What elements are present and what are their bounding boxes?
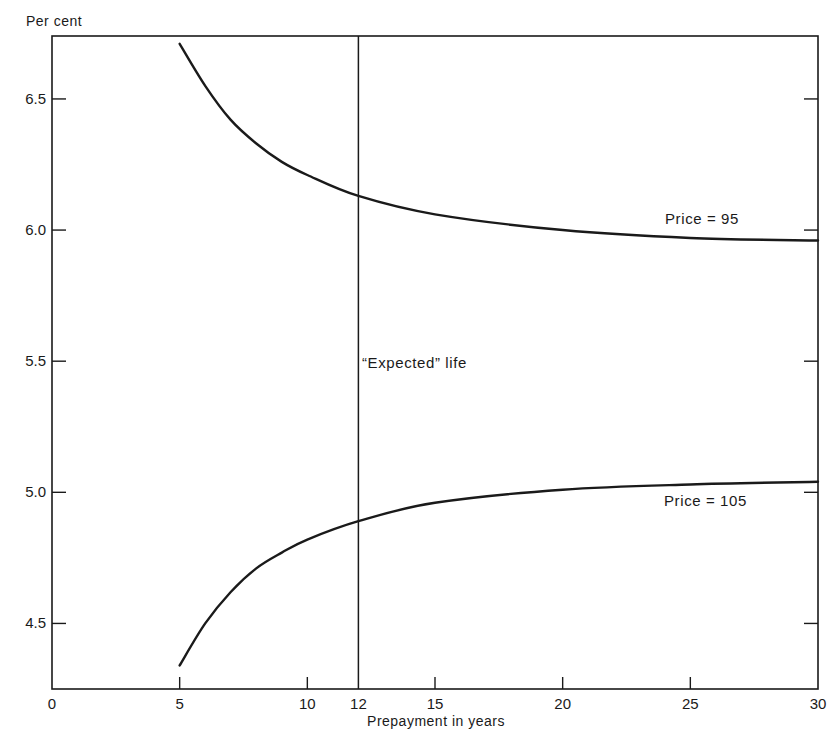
expected-life-label: “Expected” life: [362, 354, 467, 371]
y-axis-title: Per cent: [26, 13, 82, 29]
x-axis-title: Prepayment in years: [367, 713, 505, 729]
x-tick-label: 30: [810, 695, 827, 712]
x-tick-label: 0: [48, 695, 56, 712]
axis-ticks: 051012152025304.55.05.56.06.5: [25, 90, 826, 712]
y-tick-label: 5.0: [25, 483, 46, 500]
x-tick-label: 5: [175, 695, 183, 712]
series-label-price-95: Price = 95: [665, 210, 739, 227]
curves: [180, 36, 818, 689]
x-tick-label: 12: [350, 695, 367, 712]
y-tick-label: 6.5: [25, 90, 46, 107]
y-tick-label: 4.5: [25, 614, 46, 631]
x-tick-label: 10: [299, 695, 316, 712]
y-tick-label: 5.5: [25, 352, 46, 369]
x-tick-label: 15: [427, 695, 444, 712]
y-tick-label: 6.0: [25, 221, 46, 238]
x-tick-label: 20: [554, 695, 571, 712]
series-label-price-105: Price = 105: [664, 492, 747, 509]
curve-price-105: [180, 482, 818, 666]
x-tick-label: 25: [682, 695, 699, 712]
chart: 051012152025304.55.05.56.06.5 Per cent P…: [0, 0, 836, 741]
